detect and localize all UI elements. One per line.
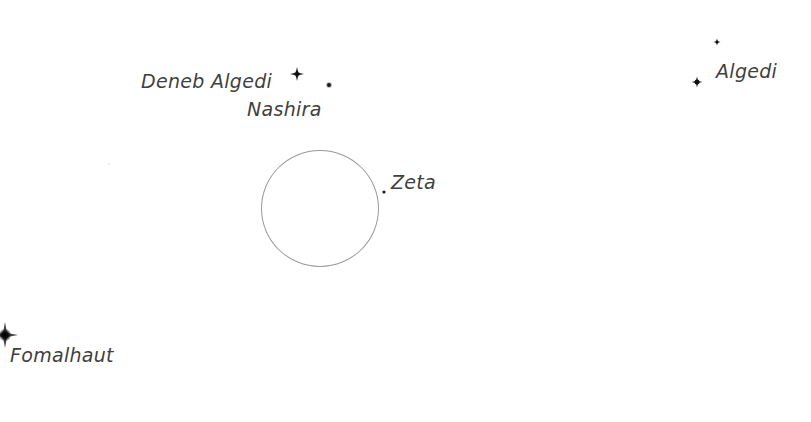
label-fomalhaut: Fomalhaut	[10, 346, 114, 365]
star-icon-algedi-secondary[interactable]	[713, 38, 721, 46]
star-icon-nashira[interactable]	[326, 82, 333, 89]
label-deneb-algedi: Deneb Algedi	[141, 72, 272, 91]
label-algedi: Algedi	[716, 62, 777, 81]
label-zeta: Zeta	[391, 173, 436, 192]
star-icon-algedi[interactable]	[691, 76, 703, 88]
label-nashira: Nashira	[247, 100, 322, 119]
star-chart: Deneb Algedi Nashira Algedi Zeta Fomalha…	[0, 0, 811, 422]
star-icon-deneb-algedi[interactable]	[289, 66, 305, 82]
faint-speck	[108, 163, 110, 165]
position-circle	[261, 150, 379, 267]
star-icon-zeta[interactable]	[382, 190, 387, 195]
